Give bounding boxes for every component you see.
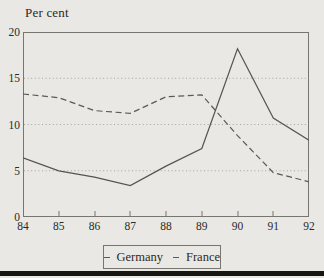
x-tick-label-84: 84 — [12, 220, 34, 232]
france-dashed-line-sample — [173, 257, 179, 258]
x-tick-label-87: 87 — [119, 220, 141, 232]
y-tick-label-5: 5 — [0, 165, 20, 177]
france-line — [23, 94, 309, 182]
x-tick-label-86: 86 — [84, 220, 106, 232]
x-tick-label-91: 91 — [262, 220, 284, 232]
legend-label-france: France — [186, 250, 220, 265]
x-tick-label-92: 92 — [298, 220, 320, 232]
legend-label-germany: Germany — [117, 250, 164, 265]
y-tick-label-15: 15 — [0, 72, 20, 84]
y-tick-label-20: 20 — [0, 26, 20, 38]
y-axis-title: Per cent — [25, 5, 69, 21]
plot-canvas — [23, 32, 309, 217]
legend: Germany France — [103, 245, 221, 269]
x-tick-label-85: 85 — [48, 220, 70, 232]
line-chart-figure: Per cent 05101520 848586878889909192 Ger… — [0, 0, 324, 278]
plot-area — [23, 32, 309, 217]
y-tick-label-10: 10 — [0, 119, 20, 131]
bottom-rule — [0, 271, 324, 276]
x-tick-label-90: 90 — [227, 220, 249, 232]
x-tick-label-88: 88 — [155, 220, 177, 232]
germany-solid-line-sample — [104, 257, 110, 258]
x-tick-label-89: 89 — [191, 220, 213, 232]
